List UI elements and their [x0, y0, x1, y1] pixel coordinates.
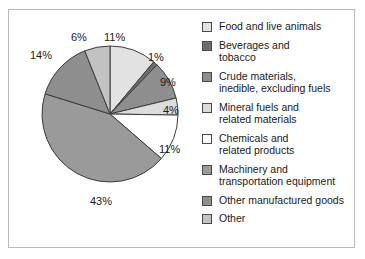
pie-slice-percentage: 11%: [159, 143, 180, 155]
pie-slice-percentage: 14%: [30, 49, 52, 61]
pie-slice-percentage: 9%: [160, 76, 176, 88]
pie-slices: [42, 46, 178, 182]
pie-chart-svg: [8, 9, 203, 248]
pie-chart-area: 11%1%9%4%11%43%14%6%: [8, 9, 203, 248]
legend-item-label: Machinery and transportation equipment: [219, 163, 335, 188]
legend-swatch-icon: [202, 165, 212, 175]
legend-swatch-icon: [202, 196, 212, 206]
pie-slice-percentage: 1%: [148, 51, 164, 63]
legend-item-label: Mineral fuels and related materials: [219, 101, 299, 126]
legend-swatch-icon: [202, 103, 212, 113]
chart-legend: Food and live animalsBeverages and tobac…: [202, 20, 360, 231]
legend-item: Other: [202, 212, 360, 225]
legend-item: Chemicals and related products: [202, 132, 360, 157]
legend-item: Crude materials, inedible, excluding fue…: [202, 70, 360, 95]
pie-chart-figure: 11%1%9%4%11%43%14%6% Food and live anima…: [0, 0, 365, 259]
legend-item-label: Chemicals and related products: [219, 132, 294, 157]
legend-item: Beverages and tobacco: [202, 39, 360, 64]
legend-swatch-icon: [202, 134, 212, 144]
pie-slice-percentage: 43%: [90, 195, 112, 207]
legend-swatch-icon: [202, 41, 212, 51]
legend-item-label: Other manufactured goods: [219, 194, 344, 207]
legend-item-label: Other: [219, 212, 245, 225]
legend-swatch-icon: [202, 214, 212, 224]
legend-item-label: Food and live animals: [219, 20, 321, 33]
legend-item: Mineral fuels and related materials: [202, 101, 360, 126]
legend-item: Machinery and transportation equipment: [202, 163, 360, 188]
pie-slice-percentage: 4%: [163, 104, 179, 116]
legend-item: Food and live animals: [202, 20, 360, 33]
legend-item-label: Beverages and tobacco: [219, 39, 290, 64]
pie-slice-percentage: 6%: [71, 31, 87, 43]
legend-swatch-icon: [202, 72, 212, 82]
legend-item: Other manufactured goods: [202, 194, 360, 207]
legend-swatch-icon: [202, 22, 212, 32]
pie-slice-percentage: 11%: [104, 31, 125, 43]
legend-item-label: Crude materials, inedible, excluding fue…: [219, 70, 331, 95]
